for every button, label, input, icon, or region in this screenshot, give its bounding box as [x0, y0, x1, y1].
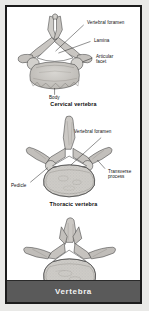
label-articular-facet: Articular facet — [96, 54, 122, 65]
label-vertebral-foramen: Vertebral foramen — [74, 129, 111, 134]
panel-thoracic-vertebra: Vertebral foramen Transverse process Ped… — [7, 111, 140, 206]
label-vertebral-foramen: Vertebral foramen — [87, 20, 124, 25]
label-transverse-process: Transverse process — [108, 169, 134, 180]
figure-footer-bar: Vertebra — [7, 280, 140, 302]
figure-frame: Vertebral foramen Lamina Articular facet… — [5, 5, 142, 304]
panel-lumbar-vertebra — [7, 212, 140, 281]
figure-footer-title: Vertebra — [55, 287, 92, 296]
caption-thoracic-vertebra: Thoracic vertebra — [7, 201, 140, 207]
thoracic-vertebra-illustration — [7, 111, 140, 206]
label-lamina: Lamina — [94, 38, 109, 43]
panel-stack: Vertebral foramen Lamina Articular facet… — [7, 7, 140, 281]
lumbar-vertebra-illustration — [7, 212, 140, 281]
label-pedicle: Pedicle — [11, 183, 26, 188]
panel-cervical-vertebra: Vertebral foramen Lamina Articular facet… — [7, 7, 140, 105]
caption-cervical-vertebra: Cervical vertebra — [7, 101, 140, 107]
label-body: Body — [49, 95, 60, 100]
